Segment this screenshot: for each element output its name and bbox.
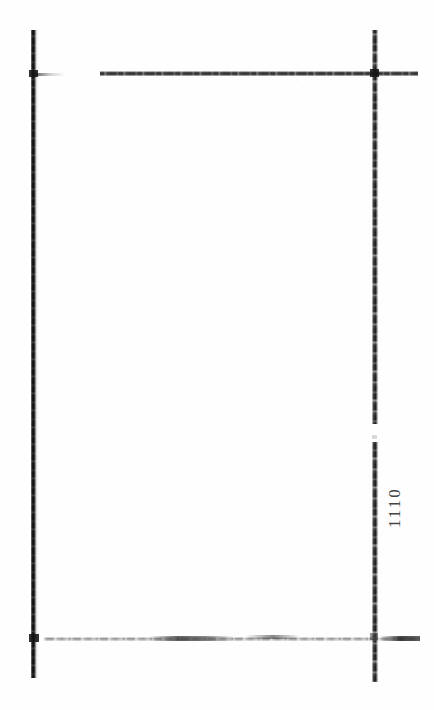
page-number: 1110	[380, 458, 408, 528]
paper-substrate	[0, 0, 434, 710]
left-vertical-rule	[31, 30, 36, 678]
top-rule-left-stub	[35, 73, 65, 76]
bottom-rule-ink-cluster	[246, 635, 300, 639]
bottom-rule-ink-cluster	[150, 636, 234, 641]
right-rule-gap	[370, 424, 381, 442]
right-vertical-rule	[372, 30, 378, 682]
bottom-rule-ink-cluster	[380, 636, 420, 641]
bottom-left-rule-junction	[29, 634, 39, 642]
top-left-rule-junction	[29, 70, 38, 77]
bottom-right-rule-junction	[370, 633, 378, 640]
top-right-rule-junction	[370, 69, 379, 77]
scanned-page: 1110	[0, 0, 434, 710]
